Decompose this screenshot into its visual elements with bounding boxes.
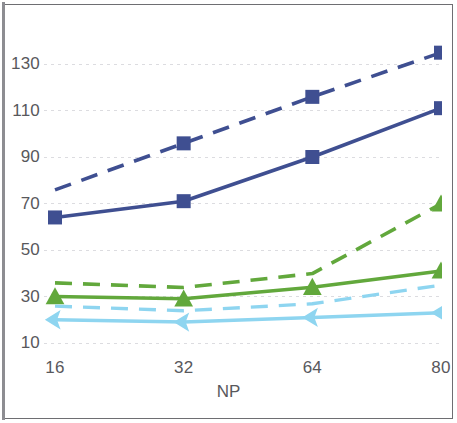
chart-figure: 1301109070503010 16326480 NP: [0, 0, 457, 423]
x-axis-title: NP: [0, 382, 457, 402]
x-tick-label-80: 80: [431, 358, 450, 378]
x-tick-label-16: 16: [45, 358, 64, 378]
x-tick-label-32: 32: [174, 358, 193, 378]
x-axis-tick-labels: 16326480: [0, 0, 457, 423]
x-tick-label-64: 64: [303, 358, 322, 378]
